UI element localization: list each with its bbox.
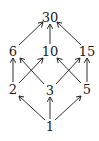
edge-3-6 xyxy=(20,58,44,84)
edge-6-30 xyxy=(19,22,43,45)
node-30: 30 xyxy=(42,11,59,24)
node-6: 6 xyxy=(9,45,17,58)
node-3: 3 xyxy=(46,84,54,97)
edge-1-5 xyxy=(55,96,81,120)
edge-15-30 xyxy=(57,22,81,45)
edge-1-2 xyxy=(19,96,45,120)
node-1: 1 xyxy=(46,120,54,133)
node-15: 15 xyxy=(79,45,96,58)
node-10: 10 xyxy=(42,45,59,58)
edge-3-15 xyxy=(56,58,80,84)
node-5: 5 xyxy=(83,83,91,96)
node-2: 2 xyxy=(9,83,17,96)
